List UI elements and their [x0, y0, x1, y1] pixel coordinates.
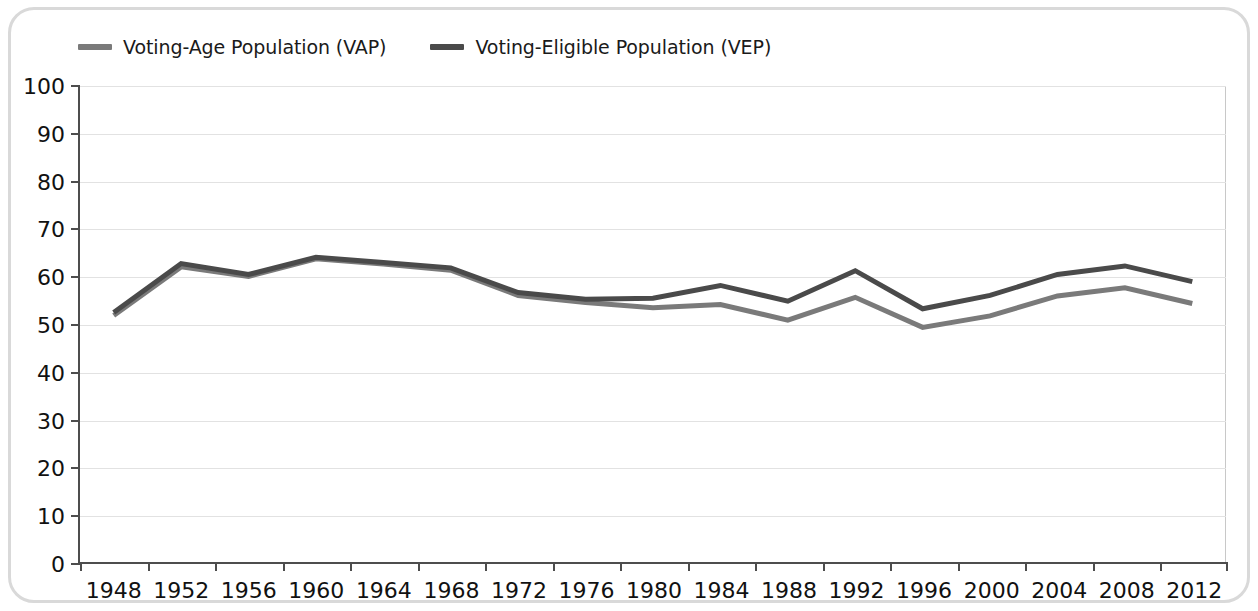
y-tick-mark	[71, 324, 80, 326]
plot-border-right	[1225, 86, 1226, 562]
x-tick-mark	[1093, 562, 1095, 571]
x-tick-label: 2004	[1031, 578, 1087, 603]
series-line-vep	[114, 257, 1193, 312]
y-tick-mark	[71, 276, 80, 278]
gridline	[80, 229, 1226, 230]
gridline	[80, 421, 1226, 422]
y-tick-mark	[71, 228, 80, 230]
y-tick-mark	[71, 372, 80, 374]
x-tick-mark	[80, 562, 82, 571]
y-tick-label: 20	[37, 456, 65, 481]
x-tick-mark	[1226, 562, 1228, 571]
legend-label-vap: Voting-Age Population (VAP)	[123, 36, 386, 58]
y-tick-label: 0	[51, 552, 65, 577]
x-tick-label: 1972	[491, 578, 547, 603]
gridline	[80, 373, 1226, 374]
y-tick-label: 30	[37, 408, 65, 433]
y-tick-mark	[71, 133, 80, 135]
x-tick-label: 1988	[761, 578, 817, 603]
x-tick-label: 1964	[356, 578, 412, 603]
y-tick-mark	[71, 467, 80, 469]
gridline	[80, 182, 1226, 183]
x-tick-mark	[485, 562, 487, 571]
legend-swatch-vap	[78, 44, 112, 50]
y-tick-mark	[71, 181, 80, 183]
x-tick-mark	[890, 562, 892, 571]
x-tick-mark	[1025, 562, 1027, 571]
y-tick-label: 50	[37, 313, 65, 338]
chart-legend: Voting-Age Population (VAP) Voting-Eligi…	[78, 36, 771, 58]
y-tick-label: 70	[37, 217, 65, 242]
x-tick-label: 1980	[626, 578, 682, 603]
x-tick-mark	[148, 562, 150, 571]
x-tick-label: 1984	[694, 578, 750, 603]
y-tick-mark	[71, 515, 80, 517]
gridline	[80, 325, 1226, 326]
y-tick-label: 40	[37, 360, 65, 385]
series-line-vap	[114, 259, 1193, 328]
x-tick-mark	[688, 562, 690, 571]
plot-wrapper: 0102030405060708090100 19481952195619601…	[78, 86, 1226, 564]
x-tick-mark	[350, 562, 352, 571]
x-tick-label: 1968	[423, 578, 479, 603]
x-tick-mark	[283, 562, 285, 571]
x-tick-label: 1956	[221, 578, 277, 603]
gridline	[80, 134, 1226, 135]
gridline	[80, 277, 1226, 278]
x-tick-mark	[418, 562, 420, 571]
y-tick-label: 60	[37, 265, 65, 290]
gridline	[80, 86, 1226, 87]
legend-item-vep: Voting-Eligible Population (VEP)	[430, 36, 771, 58]
y-tick-mark	[71, 563, 80, 565]
gridline	[80, 516, 1226, 517]
x-tick-mark	[553, 562, 555, 571]
x-tick-label: 1948	[86, 578, 142, 603]
gridline	[80, 468, 1226, 469]
x-tick-mark	[215, 562, 217, 571]
legend-swatch-vep	[430, 44, 464, 50]
y-tick-mark	[71, 420, 80, 422]
x-tick-label: 2012	[1166, 578, 1222, 603]
x-tick-label: 1992	[829, 578, 885, 603]
legend-label-vep: Voting-Eligible Population (VEP)	[475, 36, 771, 58]
x-tick-label: 1960	[288, 578, 344, 603]
x-tick-label: 1976	[558, 578, 614, 603]
x-tick-label: 1952	[153, 578, 209, 603]
x-tick-mark	[958, 562, 960, 571]
x-tick-mark	[755, 562, 757, 571]
x-tick-mark	[1160, 562, 1162, 571]
y-tick-label: 80	[37, 169, 65, 194]
x-tick-label: 2008	[1099, 578, 1155, 603]
y-tick-label: 100	[23, 74, 65, 99]
x-tick-label: 2000	[964, 578, 1020, 603]
y-tick-label: 90	[37, 121, 65, 146]
plot-area: 0102030405060708090100 19481952195619601…	[78, 86, 1226, 564]
x-tick-label: 1996	[896, 578, 952, 603]
series-layer	[80, 86, 1226, 562]
x-tick-mark	[620, 562, 622, 571]
chart-container: Voting-Age Population (VAP) Voting-Eligi…	[0, 0, 1258, 611]
y-tick-mark	[71, 85, 80, 87]
legend-item-vap: Voting-Age Population (VAP)	[78, 36, 386, 58]
x-tick-mark	[823, 562, 825, 571]
y-tick-label: 10	[37, 504, 65, 529]
